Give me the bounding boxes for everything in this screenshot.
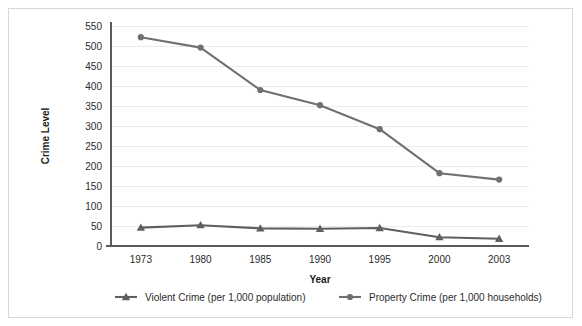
y-axis-title: Crime Level [40, 107, 51, 164]
legend-label: Property Crime (per 1,000 households) [369, 292, 542, 303]
legend-item-1[interactable]: Violent Crime (per 1,000 population) [115, 292, 305, 303]
y-axis-tick-label: 150 [85, 181, 102, 192]
y-axis-tick-label: 250 [85, 141, 102, 152]
x-axis-tick-label: 1995 [369, 254, 392, 265]
data-point-marker-circle [197, 45, 203, 51]
chart-figure-frame: 050100150200250300350400450500550 197319… [8, 8, 573, 318]
data-point-marker-circle [496, 177, 502, 183]
data-point-marker-circle [347, 294, 353, 300]
data-point-marker-circle [436, 170, 442, 176]
y-axis-tick-label: 500 [85, 41, 102, 52]
y-axis-tick-labels: 050100150200250300350400450500550 [85, 21, 102, 252]
series-1 [137, 221, 504, 242]
y-axis-tick-label: 300 [85, 121, 102, 132]
y-axis-tick-label: 400 [85, 81, 102, 92]
gridlines-group [111, 26, 529, 226]
chart-legend: Violent Crime (per 1,000 population)Prop… [115, 292, 542, 303]
x-axis-tick-labels: 1973198019851990199520002003 [130, 254, 511, 265]
x-axis-tick-label: 2003 [488, 254, 511, 265]
x-axis-tick-label: 1973 [130, 254, 153, 265]
y-axis-tick-label: 450 [85, 61, 102, 72]
y-axis-tick-label: 200 [85, 161, 102, 172]
y-axis-tick-label: 350 [85, 101, 102, 112]
legend-item-2[interactable]: Property Crime (per 1,000 households) [339, 292, 542, 303]
x-axis-tick-label: 2000 [428, 254, 451, 265]
data-point-marker-circle [377, 126, 383, 132]
x-axis-tick-label: 1990 [309, 254, 332, 265]
data-series-group [137, 34, 504, 242]
data-point-marker-circle [138, 34, 144, 40]
y-axis-tick-label: 100 [85, 201, 102, 212]
series-line [141, 37, 499, 179]
x-axis-tick-label: 1980 [189, 254, 212, 265]
series-2 [138, 34, 502, 183]
y-axis-tick-label: 0 [96, 241, 102, 252]
crime-level-line-chart: 050100150200250300350400450500550 197319… [9, 9, 572, 317]
x-axis-tick-label: 1985 [249, 254, 272, 265]
data-point-marker-circle [257, 87, 263, 93]
y-axis-tick-label: 50 [91, 221, 103, 232]
x-axis-title: Year [309, 274, 330, 285]
y-axis-tick-label: 550 [85, 21, 102, 32]
data-point-marker-circle [317, 102, 323, 108]
legend-label: Violent Crime (per 1,000 population) [145, 292, 305, 303]
